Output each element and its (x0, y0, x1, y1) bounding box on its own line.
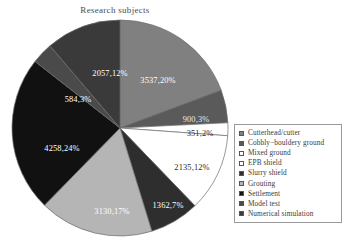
legend-item-label: Numerical simulation (248, 209, 313, 219)
legend-item-label: Mixed ground (248, 148, 291, 158)
legend-item-label: EPB shield (248, 158, 282, 168)
chart-legend: Cutterhead/cutterCobbly−bouldery groundM… (234, 124, 342, 223)
pie-slice-label: 2135,12% (174, 163, 209, 172)
pie-slice-label: 584,3% (65, 95, 92, 104)
legend-item-label: Slurry shield (248, 168, 287, 178)
legend-swatch-icon (239, 191, 244, 196)
legend-item-label: Grouting (248, 179, 275, 189)
legend-item-label: Cobbly−bouldery ground (248, 138, 324, 148)
legend-item[interactable]: Mixed ground (239, 148, 338, 158)
pie-slice-group (12, 20, 228, 236)
pie-slice-label: 1362,7% (152, 201, 183, 210)
pie-slice-label: 351,2% (187, 129, 214, 138)
legend-item[interactable]: Settlement (239, 189, 338, 199)
legend-item-label: Model test (248, 199, 280, 209)
legend-swatch-icon (239, 211, 244, 216)
legend-item[interactable]: Numerical simulation (239, 209, 338, 219)
pie-slice-label: 3537,20% (140, 76, 175, 85)
legend-swatch-icon (239, 141, 244, 146)
legend-swatch-icon (239, 151, 244, 156)
legend-item[interactable]: Grouting (239, 178, 338, 188)
pie-chart: 3537,20%900,3%351,2%2135,12%1362,7%3130,… (10, 18, 230, 238)
legend-item-label: Cutterhead/cutter (248, 128, 300, 138)
legend-swatch-icon (239, 181, 244, 186)
legend-item[interactable]: Model test (239, 199, 338, 209)
legend-swatch-icon (239, 201, 244, 206)
pie-svg: 3537,20%900,3%351,2%2135,12%1362,7%3130,… (10, 18, 230, 238)
legend-item[interactable]: EPB shield (239, 158, 338, 168)
legend-item[interactable]: Slurry shield (239, 168, 338, 178)
pie-slice-label: 900,3% (183, 115, 210, 124)
legend-item-label: Settlement (248, 189, 280, 199)
legend-swatch-icon (239, 131, 244, 136)
legend-item[interactable]: Cobbly−bouldery ground (239, 138, 338, 148)
pie-slice-label: 4258,24% (44, 144, 79, 153)
legend-swatch-icon (239, 171, 244, 176)
legend-item[interactable]: Cutterhead/cutter (239, 128, 338, 138)
pie-slice-label: 2057,12% (92, 69, 127, 78)
legend-swatch-icon (239, 161, 244, 166)
pie-slice-label: 3130,17% (94, 207, 129, 216)
page-title: Research subjects (0, 5, 230, 15)
